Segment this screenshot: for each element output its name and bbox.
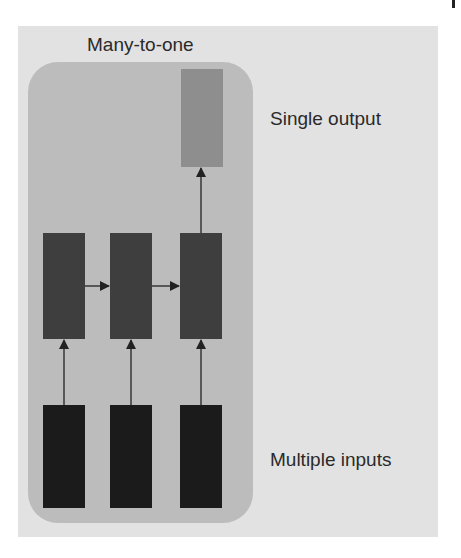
output-label: Single output [270,108,381,130]
inputs-label: Multiple inputs [270,449,391,471]
arrows-layer [0,0,461,558]
